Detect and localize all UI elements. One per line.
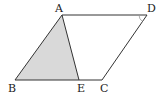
angle-arc-d	[139, 15, 143, 22]
label-e: E	[77, 82, 85, 95]
label-d: D	[147, 2, 156, 15]
label-a: A	[54, 2, 64, 15]
label-c: C	[100, 82, 108, 95]
shaded-triangle-abe	[15, 15, 79, 80]
label-b: B	[8, 82, 16, 95]
parallelogram-diagram: A D B E C	[0, 0, 160, 95]
